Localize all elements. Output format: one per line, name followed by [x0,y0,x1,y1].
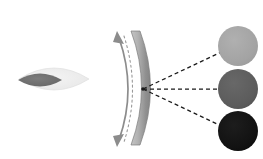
spot-lower [218,111,258,151]
optical-diagram-svg [0,0,263,159]
spot-upper [218,26,258,66]
rotation-arrow-head-bottom [113,134,124,147]
rotation-arrow-shaft [119,38,128,140]
mirror-band [131,31,151,145]
concave-scanning-mirror-group [131,31,151,145]
ray-lower [143,89,232,131]
mirror-rotation-arrow-group [113,31,128,147]
rotation-arrow-head-top [113,31,124,44]
spot-middle [218,69,258,109]
ray-convergence-point [141,87,145,91]
figure-canvas [0,0,263,159]
beam-source-lens-group [18,68,89,90]
target-spot-group [218,26,258,151]
